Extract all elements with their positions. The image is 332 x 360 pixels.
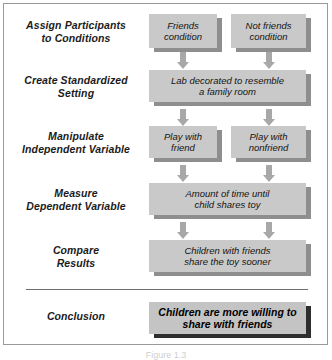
row-label-line1: Conclusion [8, 310, 144, 323]
row-label-line1: Manipulate [8, 130, 144, 143]
row-label-manipulate-independent-variable: Manipulate Independent Variable [8, 130, 144, 155]
row-manipulate-independent-variable: Manipulate Independent Variable Play wit… [4, 124, 327, 164]
box-text-line1: Children are more willing to [158, 306, 296, 318]
box-friends-condition: Friends condition [149, 14, 217, 48]
box-amount-of-time: Amount of time until child shares toy [149, 183, 306, 215]
arrow-down-not-friends-to-lab [263, 52, 275, 69]
row-create-standardized-setting: Create Standardized Setting Lab decorate… [4, 68, 327, 108]
box-text-line1: Friends [167, 20, 199, 31]
box-text-line2: share with friends [183, 318, 273, 330]
row-label-create-standardized-setting: Create Standardized Setting [8, 74, 144, 99]
row-label-line2: Results [8, 257, 144, 270]
row-label-line1: Create Standardized [8, 74, 144, 87]
box-text-line1: Lab decorated to resemble [171, 75, 284, 86]
box-text-line2: child shares toy [194, 199, 260, 210]
box-not-friends-condition: Not friends condition [231, 14, 306, 48]
row-label-compare-results: Compare Results [8, 244, 144, 269]
arrow-down-measure-to-compare-right [263, 222, 275, 239]
row-label-line1: Assign Participants [8, 19, 144, 32]
section-divider [26, 289, 308, 290]
figure-frame: Assign Participants to Conditions Friend… [3, 3, 328, 345]
box-play-with-friend: Play with friend [149, 126, 217, 158]
box-text-line2: share the toy sooner [184, 256, 271, 267]
box-text-line1: Play with [249, 131, 287, 142]
box-text-line1: Not friends [246, 20, 292, 31]
figure-container: Assign Participants to Conditions Friend… [0, 0, 332, 360]
figure-caption: Figure 1.3 [0, 350, 332, 360]
row-label-assign-participants: Assign Participants to Conditions [8, 19, 144, 44]
row-label-line1: Measure [8, 187, 144, 200]
arrow-down-friends-to-lab [177, 52, 189, 69]
row-label-conclusion: Conclusion [8, 310, 144, 323]
row-label-line2: to Conditions [8, 32, 144, 45]
arrow-down-nonfriend-to-measure [263, 165, 275, 182]
row-label-line2: Setting [8, 87, 144, 100]
box-text-line1: Play with [164, 131, 202, 142]
row-label-line2: Independent Variable [8, 143, 144, 156]
box-text-line2: friend [171, 142, 195, 153]
row-conclusion: Conclusion Children are more willing to … [4, 298, 327, 340]
box-text-line2: a family room [199, 86, 256, 97]
box-text-line2: condition [164, 31, 202, 42]
row-assign-participants: Assign Participants to Conditions Friend… [4, 10, 327, 54]
box-text-line1: Amount of time until [186, 188, 270, 199]
arrow-down-measure-to-compare-left [177, 222, 189, 239]
box-play-with-nonfriend: Play with nonfriend [231, 126, 306, 158]
row-measure-dependent-variable: Measure Dependent Variable Amount of tim… [4, 181, 327, 221]
box-text-line2: condition [249, 31, 287, 42]
row-label-line2: Dependent Variable [8, 200, 144, 213]
box-text-line1: Children with friends [184, 245, 270, 256]
row-label-measure-dependent-variable: Measure Dependent Variable [8, 187, 144, 212]
box-conclusion: Children are more willing to share with … [149, 302, 306, 334]
row-label-line1: Compare [8, 244, 144, 257]
arrow-down-friend-to-measure [177, 165, 189, 182]
box-lab-setting: Lab decorated to resemble a family room [149, 70, 306, 102]
box-compare-results: Children with friends share the toy soon… [149, 240, 306, 272]
row-compare-results: Compare Results Children with friends sh… [4, 238, 327, 278]
box-text-line2: nonfriend [249, 142, 289, 153]
